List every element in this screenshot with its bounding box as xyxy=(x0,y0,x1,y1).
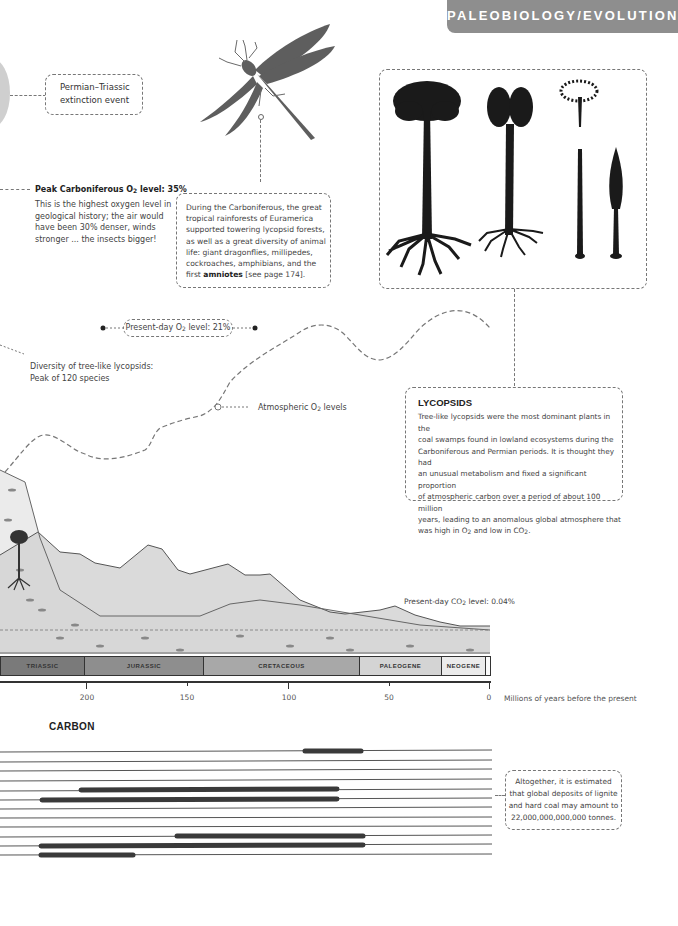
extinction-line2: extinction event xyxy=(60,94,142,107)
era-neogene: NEOGENE xyxy=(441,656,486,676)
tick-label-200: 200 xyxy=(80,693,94,702)
carboniferous-callout: During the Carboniferous, the great trop… xyxy=(176,193,331,288)
present-co2-label: Present-day CO2 level: 0.04% xyxy=(404,596,515,608)
tick-label-100: 100 xyxy=(282,693,296,702)
atmospheric-o2-label: Atmospheric O2 levels xyxy=(258,402,347,414)
lycopsid-panel-connector xyxy=(514,289,515,386)
co2-area-chart xyxy=(0,460,500,660)
peak-o2-body: This is the highest oxygen level in geol… xyxy=(35,199,171,245)
x-axis-tick xyxy=(288,681,289,689)
extinction-callout: Permian–Triassic extinction event xyxy=(45,74,143,115)
peak-o2-line: geological history; the air would xyxy=(35,211,171,223)
coal-callout: Altogether, it is estimated that global … xyxy=(505,770,622,830)
dragonfly-connector xyxy=(260,120,261,182)
carboniferous-line: During the Carboniferous, the great xyxy=(186,202,330,213)
peak-o2-connector xyxy=(0,189,30,190)
carboniferous-line: supported towering lycopsid forests, xyxy=(186,224,330,235)
present-o2-callout: Present-day O2 level: 21% xyxy=(123,319,233,337)
coal-line: Altogether, it is estimated xyxy=(506,776,621,788)
tick-label-0: 0 xyxy=(487,693,492,702)
diversity-line: Diversity of tree-like lycopsids: xyxy=(30,361,153,373)
era-triassic: TRIASSIC xyxy=(0,656,85,676)
x-axis-line xyxy=(0,681,491,683)
tick-label-50: 50 xyxy=(384,693,394,702)
carboniferous-line: first amniotes [see page 174]. xyxy=(186,269,330,280)
era-jurassic: JURASSIC xyxy=(84,656,204,676)
x-axis-tick xyxy=(389,681,390,686)
coal-line: 22,000,000,000,000 tonnes. xyxy=(506,812,621,824)
peak-o2-title: Peak Carboniferous O2 level: 35% xyxy=(35,184,187,196)
lycopsids-line: Tree-like lycopsids were the most domina… xyxy=(418,411,622,434)
x-axis-tick xyxy=(187,681,188,686)
lycopsid-trees-illustration xyxy=(379,69,647,289)
carboniferous-line: tropical rainforests of Euramerica xyxy=(186,213,330,224)
edge-circle-marker xyxy=(0,58,10,128)
x-axis-tick xyxy=(489,681,490,689)
extinction-line1: Permian–Triassic xyxy=(60,81,142,94)
carbon-title: CARBON xyxy=(49,721,95,732)
carbon-bar-chart xyxy=(0,745,495,865)
lycopsids-title: LYCOPSIDS xyxy=(418,397,622,408)
x-axis-label: Millions of years before the present xyxy=(504,693,637,704)
dragonfly-icon xyxy=(195,10,335,140)
coal-line: that global deposits of lignite xyxy=(506,788,621,800)
text: first xyxy=(186,270,203,279)
carboniferous-line: cockroaches, amphibians, and the xyxy=(186,258,330,269)
carboniferous-line: as well as a great diversity of animal xyxy=(186,236,330,247)
coal-line: and hard coal may amount to xyxy=(506,800,621,812)
era-quaternary xyxy=(485,656,491,676)
amniotes-link[interactable]: amniotes xyxy=(203,270,243,279)
extinction-connector xyxy=(10,95,46,96)
text: [see page 174]. xyxy=(243,270,305,279)
peak-o2-line: This is the highest oxygen level in xyxy=(35,199,171,211)
coal-callout-connector xyxy=(495,795,505,796)
lycopsids-line: coal swamps found in lowland ecosystems … xyxy=(418,434,622,445)
peak-o2-line: stronger ... the insects bigger! xyxy=(35,234,171,246)
era-paleogene: PALEOGENE xyxy=(359,656,442,676)
tick-label-150: 150 xyxy=(180,693,194,702)
era-cretaceous: CRETACEOUS xyxy=(203,656,360,676)
section-tab: PALEOBIOLOGY/EVOLUTION xyxy=(447,0,678,33)
x-axis-tick xyxy=(86,681,87,689)
peak-o2-line: have been 30% denser, winds xyxy=(35,222,171,234)
diversity-line: Peak of 120 species xyxy=(30,373,153,385)
lycopsid-diversity-label: Diversity of tree-like lycopsids: Peak o… xyxy=(30,361,153,385)
carboniferous-line: life: giant dragonflies, millipedes, xyxy=(186,247,330,258)
